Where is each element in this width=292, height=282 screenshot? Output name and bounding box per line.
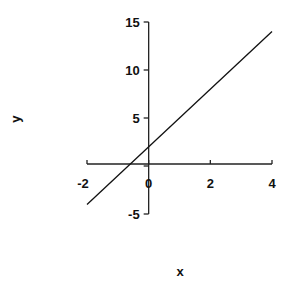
- y-tick-label: 10: [125, 63, 139, 78]
- y-axis-title: y: [8, 115, 23, 123]
- x-tick-label: -2: [77, 176, 89, 191]
- data-series: [87, 32, 272, 205]
- y-tick-label: -5: [128, 207, 140, 222]
- x-tick-label: 2: [207, 176, 214, 191]
- x-axis-title: x: [176, 264, 184, 279]
- y-tick-label: 5: [132, 111, 139, 126]
- x-tick-label: 0: [145, 176, 152, 191]
- x-tick-label: 4: [268, 176, 276, 191]
- line-chart: -2024-551015 x y: [0, 0, 292, 282]
- series-line: [87, 32, 272, 205]
- y-tick-label: 15: [125, 15, 139, 30]
- tick-labels: -2024-551015: [77, 15, 276, 222]
